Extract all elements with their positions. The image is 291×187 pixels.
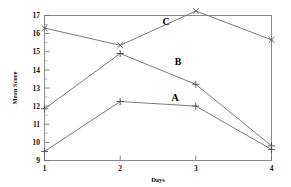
series-label-c: C [162,16,169,27]
y-tick-label-12: 12 [33,102,41,111]
chart-canvas: 9 10 11 12 13 14 15 16 17 1 2 3 4 Days M… [0,0,291,187]
y-tick-label-11: 11 [33,120,40,129]
y-tick-label-13: 13 [33,84,41,93]
y-tick-label-9: 9 [36,156,40,165]
y-axis-title: Mean Score [11,71,18,104]
x-axis-title: Days [151,176,165,183]
y-tick-label-17: 17 [33,11,41,20]
series-label-b: B [175,56,182,67]
x-tick-label-4: 4 [270,164,274,173]
y-tick-label-15: 15 [33,47,41,56]
y-tick-label-16: 16 [33,29,41,38]
y-tick-label-14: 14 [33,66,41,75]
x-tick-label-1: 1 [43,164,47,173]
line-chart: 9 10 11 12 13 14 15 16 17 1 2 3 4 Days M… [0,0,291,187]
y-tick-label-10: 10 [33,138,41,147]
x-tick-label-2: 2 [118,164,122,173]
x-tick-label-3: 3 [194,164,198,173]
series-label-a: A [171,92,179,103]
chart-background [0,0,291,187]
